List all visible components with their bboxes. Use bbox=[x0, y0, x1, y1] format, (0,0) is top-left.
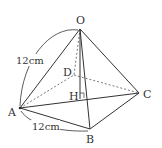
edge-OC bbox=[80, 29, 139, 93]
vertex-label-C: C bbox=[143, 88, 151, 101]
dimension-label-AB: 12cm bbox=[32, 121, 60, 132]
edge-DC bbox=[74, 75, 139, 93]
edge-AD bbox=[20, 75, 74, 108]
vertex-label-D: D bbox=[63, 66, 72, 79]
visible-edges bbox=[20, 29, 139, 129]
point-A-dot bbox=[19, 107, 21, 109]
vertex-label-O: O bbox=[76, 14, 85, 27]
pyramid-diagram: O A B C D H 12cm 12cm bbox=[0, 0, 162, 148]
vertex-label-A: A bbox=[7, 106, 17, 119]
dimension-label-OA: 12cm bbox=[16, 55, 44, 66]
edge-OB bbox=[80, 29, 90, 129]
vertex-label-B: B bbox=[86, 133, 94, 146]
vertex-label-H: H bbox=[69, 90, 79, 103]
right-angle-mark bbox=[80, 93, 84, 98]
